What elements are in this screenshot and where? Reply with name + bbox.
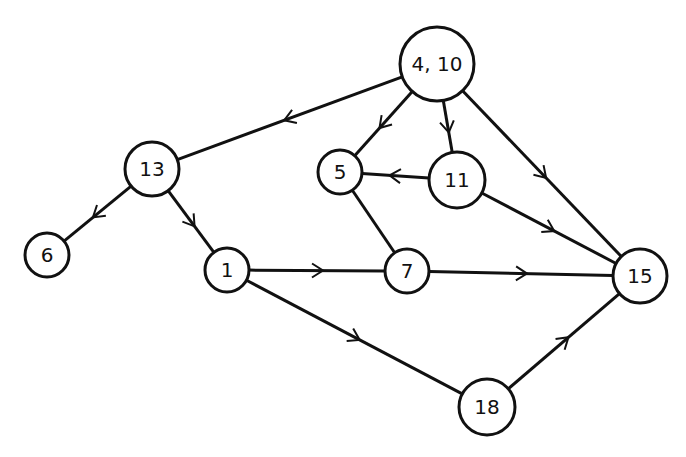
- node-label: 18: [474, 395, 499, 419]
- node-label: 6: [41, 243, 54, 267]
- node-n7: 7: [385, 249, 429, 293]
- node-n18: 18: [459, 379, 515, 435]
- directed-graph: 4, 10135116171518: [0, 0, 686, 457]
- edge-n4_10-n5: [355, 92, 413, 156]
- edge-n1-n7: [249, 270, 385, 271]
- node-n11: 11: [429, 152, 485, 208]
- edge-n13-n6: [64, 186, 131, 241]
- edge-n13-n1: [168, 191, 214, 253]
- edge-n5-n7: [352, 190, 394, 253]
- node-label: 11: [444, 168, 469, 192]
- node-label: 4, 10: [412, 52, 463, 76]
- edge-n1-n18: [246, 280, 462, 394]
- edges-layer: [64, 77, 621, 394]
- edge-n4_10-n13: [177, 77, 402, 160]
- node-n13: 13: [125, 142, 179, 196]
- node-n1: 1: [205, 248, 249, 292]
- node-n15: 15: [613, 249, 667, 303]
- edge-n11-n5: [362, 174, 429, 179]
- node-label: 5: [334, 160, 347, 184]
- node-label: 13: [139, 157, 164, 181]
- node-n5: 5: [318, 150, 362, 194]
- nodes-layer: 4, 10135116171518: [25, 27, 667, 435]
- edge-n7-n15: [429, 271, 613, 275]
- node-label: 7: [401, 259, 414, 283]
- node-n4_10: 4, 10: [400, 27, 474, 101]
- node-label: 15: [627, 264, 652, 288]
- node-n6: 6: [25, 233, 69, 277]
- edge-n18-n15: [508, 294, 619, 389]
- node-label: 1: [221, 258, 234, 282]
